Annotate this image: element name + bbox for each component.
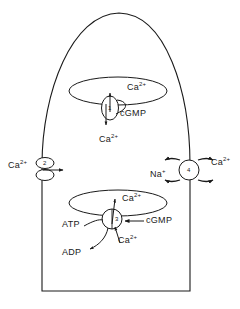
- left-extracellular-calcium-label: Ca2+: [8, 159, 27, 170]
- diagram-svg: [0, 0, 240, 309]
- upper-cgmp-label: cGMP: [120, 109, 146, 118]
- element-1-number: 1: [108, 105, 111, 111]
- upper-disc-calcium-label: Ca2+: [127, 81, 146, 92]
- element-4-number: 4: [187, 167, 190, 173]
- figure-canvas: Ca2+ cGMP Ca2+ Ca2+ Na+ Ca2+ Ca2+ ATP AD…: [0, 0, 240, 309]
- element-3-number: 3: [115, 216, 118, 222]
- sodium-label: Na+: [150, 168, 166, 179]
- upper-disc: [69, 77, 167, 105]
- lower-cgmp-label: cGMP: [146, 216, 172, 225]
- pump-3-body[interactable]: [102, 209, 122, 229]
- lower-disc-calcium-label: Ca2+: [122, 192, 141, 203]
- upper-cytosolic-calcium-label: Ca2+: [99, 133, 118, 144]
- element-2-number: 2: [43, 160, 46, 166]
- adp-label: ADP: [62, 248, 81, 257]
- lower-cytosolic-calcium-label: Ca2+: [118, 234, 137, 245]
- atp-label: ATP: [62, 220, 80, 229]
- right-extracellular-calcium-label: Ca2+: [211, 156, 230, 167]
